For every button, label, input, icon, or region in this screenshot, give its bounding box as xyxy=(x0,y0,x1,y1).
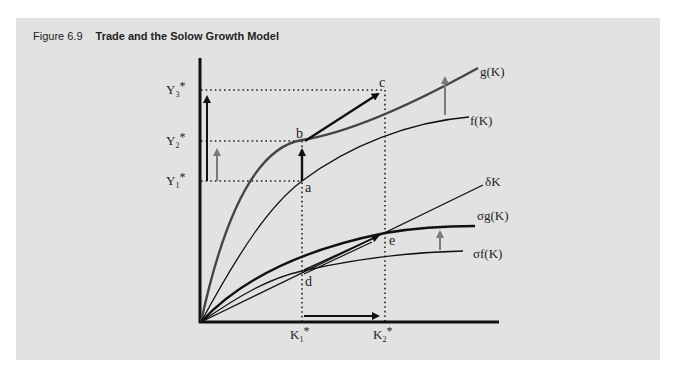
point-c-label: c xyxy=(379,75,385,90)
arrow-b-to-c xyxy=(305,94,378,141)
solow-diagram: Y3* Y2* Y1* K1* K2* g(K) f(K) δK σg(K) σ… xyxy=(0,0,683,382)
point-a-label: a xyxy=(305,180,312,195)
sigma-f-curve xyxy=(201,251,463,322)
k2-label: K2* xyxy=(373,324,392,344)
sigma-g-curve xyxy=(201,226,475,322)
sigma-g-label: σg(K) xyxy=(477,208,509,223)
point-b-label: b xyxy=(296,126,303,141)
k1-label: K1* xyxy=(290,324,309,344)
g-curve-label: g(K) xyxy=(480,64,505,79)
y2-label: Y2* xyxy=(166,130,185,150)
f-curve xyxy=(201,117,469,322)
point-e-label: e xyxy=(389,233,395,248)
sigma-f-label: σf(K) xyxy=(473,246,502,261)
delta-k-label: δK xyxy=(485,174,501,189)
delta-k-line xyxy=(201,185,483,322)
y3-label: Y3* xyxy=(166,79,185,99)
point-d-label: d xyxy=(305,274,312,289)
arrow-d-to-e-2 xyxy=(304,242,372,274)
y1-label: Y1* xyxy=(166,170,185,190)
g-curve xyxy=(201,68,478,322)
f-curve-label: f(K) xyxy=(470,113,492,128)
